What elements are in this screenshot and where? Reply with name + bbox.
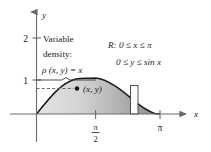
x-axis-label: x — [193, 109, 199, 119]
x-tick-label-pi-over-2-numerator: π — [93, 123, 98, 132]
figure-canvas: y x 2 1 π 2 π Variable density: ρ (x, y)… — [0, 0, 211, 152]
sample-point-dot — [75, 86, 79, 90]
region-definition-line2: 0 ≤ y ≤ sin x — [116, 57, 162, 67]
y-tick-label-2: 2 — [23, 33, 28, 44]
x-tick-label-pi: π — [158, 122, 163, 133]
y-tick-label-1: 1 — [23, 75, 28, 86]
region-definition-line1: R: 0 ≤ x ≤ π — [107, 40, 152, 50]
representative-strip — [131, 86, 139, 115]
density-label-line2: density: — [43, 49, 72, 59]
x-tick-label-pi-over-2-denominator: 2 — [94, 135, 98, 144]
sample-point-label: (x, y) — [83, 84, 102, 94]
y-axis-label: y — [41, 10, 47, 20]
density-formula: ρ (x, y) = x — [41, 65, 83, 75]
density-label-line1: Variable — [43, 34, 74, 44]
region-diagram-svg: y x 2 1 π 2 π Variable density: ρ (x, y)… — [0, 0, 211, 152]
